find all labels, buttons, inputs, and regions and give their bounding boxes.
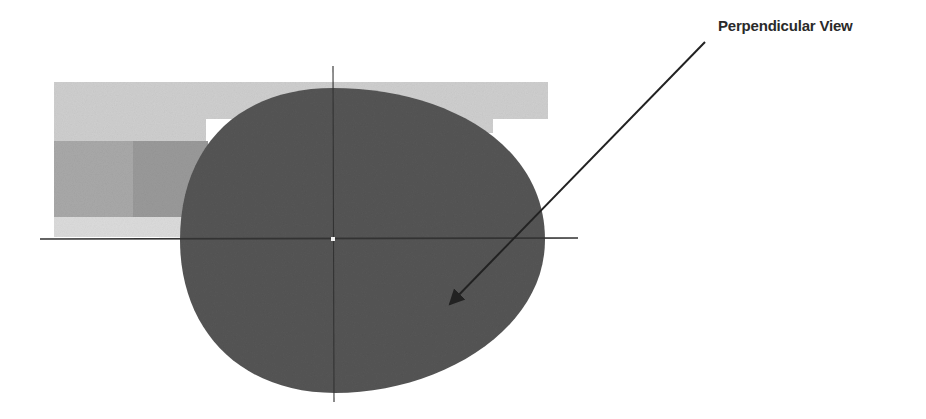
perpendicular-ellipse <box>180 88 545 393</box>
outer-band-left <box>54 119 206 141</box>
mid-band-left <box>54 141 133 217</box>
origin-marker <box>331 237 335 241</box>
diagram-canvas <box>0 0 926 419</box>
lower-band <box>54 217 194 237</box>
horizontal-axis <box>40 238 578 239</box>
perpendicular-view-diagram: Perpendicular View <box>0 0 926 419</box>
annotation-label: Perpendicular View <box>718 17 853 34</box>
